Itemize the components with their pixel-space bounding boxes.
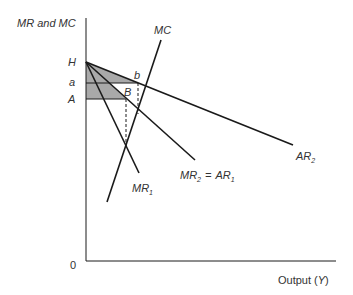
- mc-curve: [107, 40, 161, 202]
- level-label-H: H: [68, 56, 76, 68]
- y-axis-label: MR and MC: [17, 17, 76, 29]
- mc-label: MC: [154, 24, 171, 36]
- level-label-A: A: [67, 93, 75, 105]
- x-axis-label: Output (Y): [278, 274, 329, 286]
- mr2-ar1-label: MR2=AR1: [180, 169, 235, 183]
- origin-label: 0: [70, 259, 76, 271]
- point-label-B: B: [124, 86, 131, 98]
- mr1-label: MR1: [132, 182, 153, 196]
- ar2-label: AR2: [295, 150, 315, 164]
- point-label-b: b: [134, 69, 140, 81]
- shaded-region-aAB: [86, 83, 126, 99]
- economics-diagram: MR and MC 0 Output (Y) H a A b B MC MR1 …: [0, 0, 353, 295]
- mr2-ar1-curve: [86, 62, 195, 160]
- level-label-a: a: [69, 76, 75, 88]
- ar2-curve: [86, 62, 293, 145]
